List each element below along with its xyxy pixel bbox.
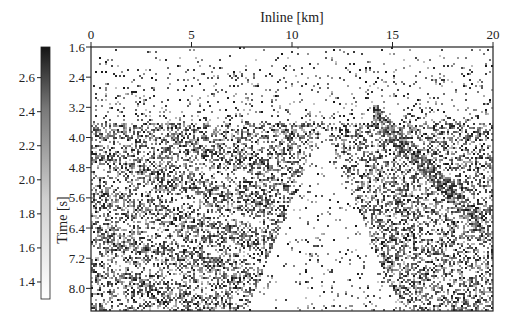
- y-tick-label: 4.0: [69, 130, 85, 145]
- y-axis: 1.62.43.24.04.85.66.47.28.0: [69, 40, 91, 296]
- x-tick-label: 5: [188, 27, 195, 42]
- y-tick-label: 6.4: [69, 221, 86, 236]
- y-tick-label: 5.6: [69, 190, 86, 205]
- colorbar-ticks: 1.41.61.82.02.22.42.6: [19, 70, 41, 289]
- colorbar-gradient: [41, 47, 50, 299]
- x-axis-label: Inline [km]: [260, 10, 323, 25]
- colorbar-tick-label: 2.6: [19, 70, 36, 85]
- colorbar-tick-label: 1.4: [19, 274, 36, 289]
- x-tick-label: 15: [386, 27, 399, 42]
- y-tick-label: 7.2: [69, 251, 85, 266]
- plot-area: [91, 47, 493, 311]
- colorbar-tick-label: 2.2: [19, 138, 35, 153]
- colorbar-tick-label: 2.4: [19, 104, 36, 119]
- colorbar-tick-label: 1.6: [19, 240, 36, 255]
- colorbar: 1.41.61.82.02.22.42.6: [19, 47, 50, 299]
- y-tick-label: 2.4: [69, 70, 86, 85]
- y-tick-label: 8.0: [69, 281, 85, 296]
- y-tick-label: 4.8: [69, 160, 85, 175]
- x-axis: 05101520: [88, 27, 500, 47]
- x-tick-label: 20: [487, 27, 500, 42]
- y-tick-label: 1.6: [69, 40, 86, 55]
- y-tick-label: 3.2: [69, 100, 85, 115]
- x-tick-label: 10: [286, 27, 299, 42]
- x-tick-label: 0: [88, 27, 95, 42]
- seismic-chart: 05101520 1.62.43.24.04.85.66.47.28.0 Inl…: [0, 0, 511, 329]
- y-axis-label: Time [s]: [55, 196, 70, 243]
- colorbar-tick-label: 1.8: [19, 206, 35, 221]
- colorbar-tick-label: 2.0: [19, 172, 35, 187]
